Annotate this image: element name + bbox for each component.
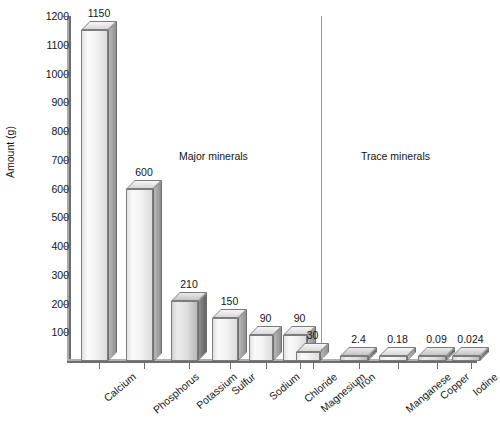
x-axis-label-calcium: Calcium bbox=[101, 371, 137, 404]
y-axis-tick: 800 bbox=[0, 126, 69, 136]
y-axis-tick: 100 bbox=[0, 327, 69, 337]
x-axis-label-phosphorus: Phosphorus bbox=[151, 371, 201, 415]
x-axis-tick-mark bbox=[189, 363, 190, 369]
bar-iron bbox=[340, 347, 368, 361]
bar-sulfur bbox=[212, 309, 238, 361]
y-axis-tick-mark bbox=[62, 160, 69, 161]
x-axis-tick-mark bbox=[359, 363, 360, 369]
y-axis-tick: 1100 bbox=[0, 40, 69, 50]
section-divider bbox=[321, 16, 322, 362]
bar-value-label-manganese: 0.18 bbox=[376, 334, 420, 345]
bar-front-face bbox=[249, 335, 273, 361]
y-axis-tick: 200 bbox=[0, 299, 69, 309]
y-axis-tick-mark bbox=[62, 102, 69, 103]
y-axis-tick-mark bbox=[62, 246, 69, 247]
y-axis-tick-mark bbox=[62, 332, 69, 333]
section-label-trace: Trace minerals bbox=[361, 150, 430, 162]
y-axis-tick: 600 bbox=[0, 184, 69, 194]
bar-value-label-magnesium: 30 bbox=[291, 330, 335, 341]
bar-front-face bbox=[126, 189, 153, 362]
y-axis-tick: 300 bbox=[0, 270, 69, 280]
y-axis-tick: 700 bbox=[0, 155, 69, 165]
y-axis-tick-mark bbox=[62, 217, 69, 218]
bar-front-face bbox=[379, 356, 407, 361]
x-axis-tick-mark bbox=[471, 363, 472, 369]
bar-calcium bbox=[81, 21, 108, 361]
y-axis-tick-mark bbox=[62, 74, 69, 75]
y-axis-tick-mark bbox=[62, 189, 69, 190]
bar-value-label-iodine: 0.024 bbox=[449, 334, 493, 345]
bar-front-face bbox=[296, 352, 320, 361]
bar-value-label-calcium: 1150 bbox=[77, 8, 121, 19]
x-axis-tick-mark bbox=[99, 363, 100, 369]
y-axis-tick: 400 bbox=[0, 241, 69, 251]
y-axis-tick-mark bbox=[62, 16, 69, 17]
bar-value-label-sulfur: 150 bbox=[208, 296, 252, 307]
bar-front-face bbox=[418, 356, 446, 361]
y-axis-tick: 1200 bbox=[0, 11, 69, 21]
bar-value-label-potassium: 210 bbox=[167, 279, 211, 290]
x-axis-label-iodine: Iodine bbox=[471, 371, 500, 398]
bar-side-face bbox=[198, 292, 207, 361]
bar-value-label-chloride: 90 bbox=[278, 313, 322, 324]
bar-magnesium bbox=[296, 343, 320, 361]
y-axis-tick-mark bbox=[62, 131, 69, 132]
bar-copper bbox=[418, 347, 446, 361]
x-axis-tick-mark bbox=[300, 363, 301, 369]
y-axis-tick: 1000 bbox=[0, 69, 69, 79]
bar-value-label-iron: 2.4 bbox=[337, 334, 381, 345]
x-axis-tick-mark bbox=[266, 363, 267, 369]
section-label-major: Major minerals bbox=[179, 150, 248, 162]
bar-manganese bbox=[379, 347, 407, 361]
bar-phosphorus bbox=[126, 180, 153, 362]
y-axis-tick-mark bbox=[62, 45, 69, 46]
bar-sodium bbox=[249, 326, 273, 361]
x-axis-tick-mark bbox=[230, 363, 231, 369]
x-axis-tick-mark bbox=[398, 363, 399, 369]
x-axis-line bbox=[67, 361, 477, 363]
x-axis-tick-mark bbox=[313, 363, 314, 369]
y-axis-tick-mark bbox=[62, 275, 69, 276]
y-axis-tick-mark bbox=[62, 304, 69, 305]
bar-value-label-phosphorus: 600 bbox=[122, 167, 166, 178]
y-axis-line bbox=[69, 16, 71, 362]
bar-front-face bbox=[212, 318, 238, 361]
x-axis-tick-mark bbox=[437, 363, 438, 369]
bar-front-face bbox=[340, 356, 368, 361]
bar-front-face bbox=[81, 30, 108, 361]
bar-side-face bbox=[108, 21, 117, 361]
bar-front-face bbox=[452, 356, 480, 361]
bar-iodine bbox=[452, 347, 480, 361]
bar-side-face bbox=[153, 180, 162, 362]
y-axis-tick: 900 bbox=[0, 97, 69, 107]
x-axis-tick-mark bbox=[144, 363, 145, 369]
bar-potassium bbox=[171, 292, 198, 361]
x-axis-label-sodium: Sodium bbox=[267, 371, 301, 402]
bar-front-face bbox=[171, 301, 198, 361]
y-axis-tick: 500 bbox=[0, 212, 69, 222]
